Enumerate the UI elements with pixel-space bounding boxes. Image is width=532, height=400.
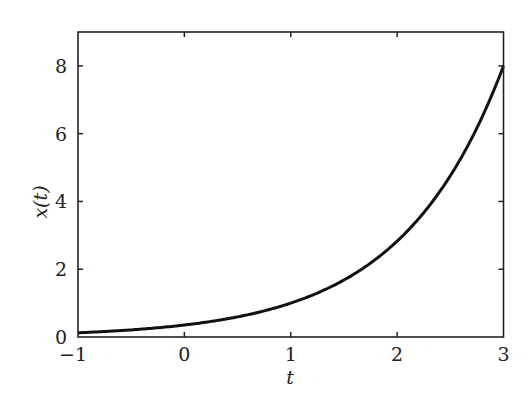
ticks [78, 32, 504, 337]
chart: −10123 02468 t x(t) [0, 0, 532, 400]
x-tick-label: 3 [497, 343, 509, 365]
y-tick-label: 8 [55, 55, 67, 77]
data-curve [78, 66, 504, 333]
y-tick-label: 0 [55, 326, 67, 348]
y-tick-label: 4 [55, 190, 67, 212]
x-tick-label: 1 [285, 343, 297, 365]
y-tick-label: 2 [55, 258, 67, 280]
y-tick-labels: 02468 [55, 55, 67, 348]
x-tick-label: 2 [391, 343, 403, 365]
y-tick-label: 6 [55, 123, 67, 145]
x-tick-labels: −10123 [59, 343, 510, 365]
x-axis-label: t [286, 366, 294, 388]
x-tick-label: 0 [178, 343, 190, 365]
y-axis-label: x(t) [29, 185, 51, 218]
plot-frame [78, 32, 504, 337]
